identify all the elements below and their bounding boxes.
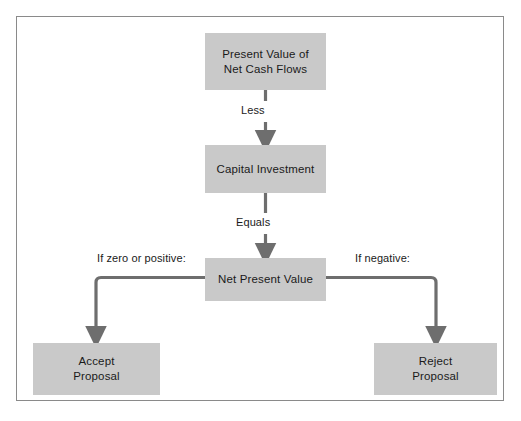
- node-accept-proposal-line1: Accept: [78, 355, 114, 367]
- node-accept-proposal-line2: Proposal: [73, 370, 120, 382]
- node-capital-investment[interactable]: Capital Investment: [205, 145, 326, 193]
- edge-label-if-zero-or-positive: If zero or positive:: [97, 252, 186, 264]
- node-present-value-label: Present Value of Net Cash Flows: [222, 47, 309, 77]
- node-accept-proposal[interactable]: Accept Proposal: [33, 343, 160, 395]
- node-reject-proposal-label: Reject Proposal: [412, 354, 459, 384]
- node-reject-proposal-line2: Proposal: [412, 370, 459, 382]
- edge-label-if-negative: If negative:: [355, 252, 410, 264]
- node-present-value[interactable]: Present Value of Net Cash Flows: [205, 33, 326, 90]
- flowchart-canvas: Present Value of Net Cash Flows Capital …: [0, 0, 521, 421]
- edge-label-equals: Equals: [236, 216, 270, 228]
- node-present-value-line1: Present Value of: [222, 48, 309, 60]
- node-accept-proposal-label: Accept Proposal: [73, 354, 120, 384]
- node-reject-proposal-line1: Reject: [419, 355, 453, 367]
- node-reject-proposal[interactable]: Reject Proposal: [374, 343, 497, 395]
- node-net-present-value-label: Net Present Value: [218, 272, 313, 287]
- node-net-present-value[interactable]: Net Present Value: [205, 258, 326, 301]
- node-capital-investment-label: Capital Investment: [217, 162, 315, 177]
- node-present-value-line2: Net Cash Flows: [224, 63, 307, 75]
- edge-label-less: Less: [241, 104, 265, 116]
